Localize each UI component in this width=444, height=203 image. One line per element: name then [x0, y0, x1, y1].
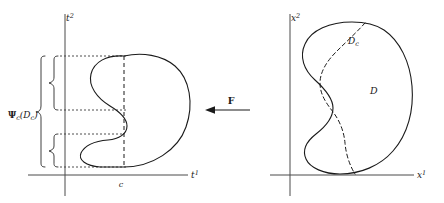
left-region-boundary	[80, 54, 190, 167]
inner-brace-upper	[49, 56, 58, 110]
left-tick-label-c: c	[119, 180, 124, 189]
mapping-arrow-label: F	[228, 95, 235, 106]
left-panel: t2 t1 c Ψc(Dc)	[8, 12, 199, 196]
right-panel: x2 x1 Dc D	[270, 12, 426, 196]
diagram-svg: t2 t1 c Ψc(Dc) F	[0, 0, 444, 203]
slice-label-dc: Dc	[347, 36, 359, 48]
mapping-arrow-group: F	[205, 95, 250, 114]
psi-c-dc-label: Ψc(Dc)	[8, 110, 38, 122]
right-vertical-axis-label: x2	[291, 12, 300, 23]
left-vertical-axis-label: t2	[66, 12, 74, 23]
inner-brace-lower	[49, 134, 58, 167]
region-label-d: D	[369, 85, 378, 96]
right-horizontal-axis-label: x1	[417, 169, 426, 180]
left-horizontal-axis-label: t1	[191, 169, 199, 180]
mapping-arrow-head	[205, 106, 215, 114]
figure-container: t2 t1 c Ψc(Dc) F	[0, 0, 444, 203]
